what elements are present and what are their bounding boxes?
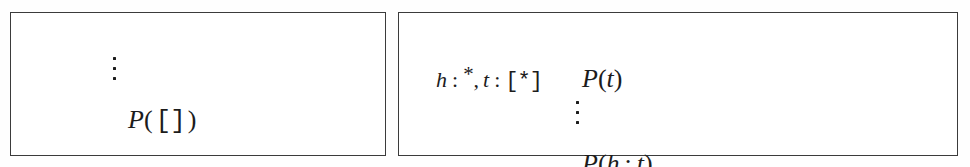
conclusion-tail-variable: t bbox=[637, 149, 644, 167]
base-case-close-paren: ) bbox=[188, 105, 197, 134]
base-case-derivation-box: P([]) bbox=[10, 12, 386, 156]
conclusion-cons-operator: : bbox=[625, 149, 632, 167]
head-variable-symbol: h bbox=[436, 67, 447, 92]
head-type-star: * bbox=[463, 62, 473, 86]
bindings-comma: , bbox=[474, 67, 480, 92]
derivation-figure: P([]) h:*,t:[*] P(t) P(h:t) bbox=[0, 0, 970, 167]
premise-open-paren: ( bbox=[598, 64, 607, 93]
tail-list-type: [*] bbox=[505, 69, 542, 94]
base-case-predicate-symbol: P bbox=[128, 105, 144, 134]
premise-predicate-symbol: P bbox=[582, 64, 598, 93]
base-case-open-paren: ( bbox=[144, 105, 153, 134]
inductive-conclusion: P(h:t) bbox=[543, 125, 653, 167]
conclusion-predicate-symbol: P bbox=[582, 149, 598, 167]
head-binding-colon: : bbox=[452, 67, 458, 92]
conclusion-head-variable: h bbox=[607, 149, 620, 167]
conclusion-open-paren: ( bbox=[598, 149, 607, 167]
premise-argument: t bbox=[607, 64, 614, 93]
inductive-hypothesis-bindings: h:*,t:[*] bbox=[403, 42, 542, 115]
tail-variable-symbol: t bbox=[483, 67, 489, 92]
tail-binding-colon: : bbox=[494, 67, 500, 92]
premise-close-paren: ) bbox=[614, 64, 623, 93]
inductive-case-derivation-box: h:*,t:[*] P(t) P(h:t) bbox=[398, 12, 958, 156]
conclusion-close-paren: ) bbox=[644, 149, 653, 167]
base-case-conclusion: P([]) bbox=[89, 81, 196, 160]
base-case-empty-list-argument: [] bbox=[156, 106, 185, 136]
